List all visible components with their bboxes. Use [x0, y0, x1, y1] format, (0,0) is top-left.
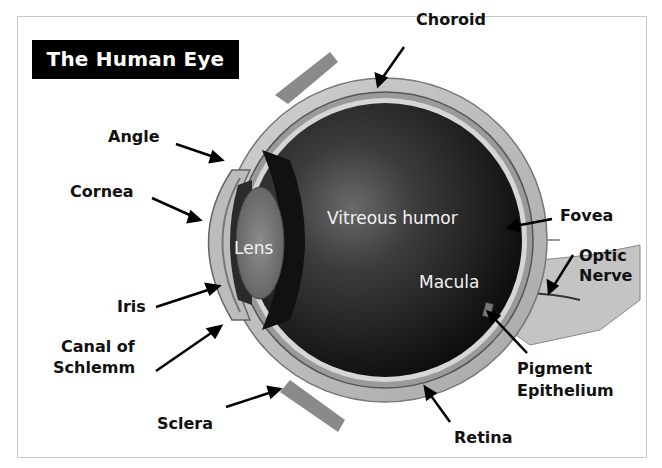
label-lens: Lens: [234, 238, 273, 258]
label-macula: Macula: [419, 272, 479, 292]
label-canal-2: Schlemm: [53, 358, 135, 377]
label-angle: Angle: [108, 127, 160, 146]
label-iris: Iris: [117, 297, 146, 316]
label-retina: Retina: [454, 428, 513, 447]
label-fovea: Fovea: [560, 206, 613, 225]
label-optic-nerve-1: Optic: [579, 246, 627, 265]
label-pigment-2: Epithelium: [517, 381, 614, 400]
label-canal-1: Canal of: [61, 337, 135, 356]
diagram-title: The Human Eye: [32, 40, 239, 79]
label-cornea: Cornea: [70, 182, 134, 201]
label-vitreous-humor: Vitreous humor: [327, 208, 458, 228]
label-sclera: Sclera: [157, 414, 213, 433]
label-pigment-1: Pigment: [517, 359, 592, 378]
label-choroid: Choroid: [416, 10, 486, 29]
label-optic-nerve-2: Nerve: [579, 266, 632, 285]
